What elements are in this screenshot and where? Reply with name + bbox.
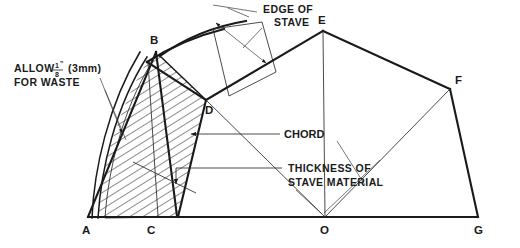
stave-diagram-canvas: EDGE OF STAVE ALLOW 1 " 8 (3mm) FOR WAST…: [0, 0, 520, 248]
polygon-spokes: [206, 31, 450, 217]
vertex-label-E: E: [318, 14, 326, 26]
fraction-numerator: 1: [55, 62, 59, 69]
vertex-label-D: D: [205, 104, 213, 116]
vertex-label-F: F: [455, 74, 462, 86]
hatched-stave-section: [98, 56, 206, 217]
vertex-label-A: A: [82, 224, 90, 236]
vertex-label-G: G: [474, 224, 483, 236]
stave-diagram-figure: EDGE OF STAVE ALLOW 1 " 8 (3mm) FOR WAST…: [0, 0, 520, 248]
callout-allow-waste: ALLOW 1 " 8 (3mm) FOR WASTE: [14, 60, 126, 140]
chord-label: CHORD: [284, 128, 324, 140]
vertex-label-C: C: [147, 224, 155, 236]
edge-of-stave-dimension: [216, 8, 266, 63]
allow-waste-leader-upper: [100, 78, 122, 133]
vertex-label-B: B: [150, 34, 158, 46]
edge-of-stave-box: [213, 22, 276, 96]
thickness-label-line1: THICKNESS OF: [288, 162, 371, 174]
allow-waste-word-allow: ALLOW: [14, 62, 55, 74]
allow-waste-metric: (3mm): [68, 62, 102, 74]
edge-of-stave-label-line2: STAVE: [274, 16, 309, 28]
thickness-label-line2: STAVE MATERIAL: [288, 176, 384, 188]
allow-waste-label-line2: FOR WASTE: [14, 76, 80, 88]
edge-of-stave-label-line1: EDGE OF: [263, 3, 313, 15]
fraction-inch-mark: ": [60, 60, 63, 67]
thickness-leader-secondary: [296, 190, 322, 214]
vertex-label-O: O: [320, 224, 329, 236]
